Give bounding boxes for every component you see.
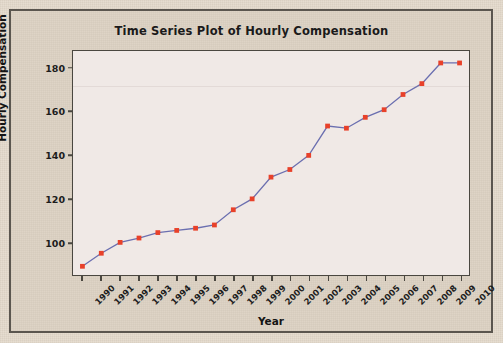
- x-tick-mark: [138, 276, 140, 281]
- x-tick-mark: [328, 276, 330, 281]
- y-tick-mark: [68, 155, 73, 157]
- grid-line: [73, 86, 469, 87]
- data-point-marker: [212, 223, 217, 228]
- chart-figure: Time Series Plot of Hourly Compensation …: [0, 0, 503, 343]
- data-point-marker: [325, 124, 330, 129]
- x-tick-mark: [119, 276, 121, 281]
- y-tick-label: 120: [23, 194, 65, 205]
- x-tick-mark: [176, 276, 178, 281]
- x-tick-mark: [195, 276, 197, 281]
- x-tick-mark: [252, 276, 254, 281]
- data-point-marker: [155, 230, 160, 235]
- plot-area: [72, 50, 470, 276]
- y-tick-label: 140: [23, 150, 65, 161]
- y-tick-mark: [68, 198, 73, 200]
- x-tick-mark: [442, 276, 444, 281]
- data-point-marker: [363, 115, 368, 120]
- data-point-marker: [99, 251, 104, 256]
- y-axis-title: Hourly Compensation: [0, 0, 8, 163]
- x-tick-mark: [157, 276, 159, 281]
- x-tick-mark: [461, 276, 463, 281]
- data-point-marker: [80, 264, 85, 269]
- x-tick-mark: [233, 276, 235, 281]
- data-point-marker: [438, 61, 443, 66]
- chart-title: Time Series Plot of Hourly Compensation: [0, 24, 503, 38]
- y-tick-mark: [68, 242, 73, 244]
- x-axis-title: Year: [72, 315, 470, 327]
- x-tick-mark: [404, 276, 406, 281]
- data-point-marker: [457, 61, 462, 66]
- series-line-and-markers: [73, 51, 469, 275]
- data-point-marker: [306, 153, 311, 158]
- x-tick-mark: [100, 276, 102, 281]
- x-tick-mark: [366, 276, 368, 281]
- data-point-marker: [269, 175, 274, 180]
- x-tick-mark: [214, 276, 216, 281]
- data-point-marker: [401, 92, 406, 97]
- data-point-marker: [118, 240, 123, 245]
- data-point-marker: [137, 236, 142, 241]
- x-tick-mark: [347, 276, 349, 281]
- data-point-marker: [382, 107, 387, 112]
- data-point-marker: [174, 228, 179, 233]
- x-tick-mark: [423, 276, 425, 281]
- plot-inner: [73, 51, 469, 275]
- data-point-marker: [250, 197, 255, 202]
- data-point-marker: [231, 207, 236, 212]
- y-tick-mark: [68, 67, 73, 69]
- data-point-marker: [344, 126, 349, 131]
- y-tick-mark: [68, 111, 73, 113]
- y-tick-label: 180: [23, 62, 65, 73]
- x-tick-mark: [385, 276, 387, 281]
- x-tick-mark: [81, 276, 83, 281]
- y-tick-label: 100: [23, 238, 65, 249]
- x-tick-mark: [290, 276, 292, 281]
- x-tick-mark: [309, 276, 311, 281]
- y-tick-label: 160: [23, 106, 65, 117]
- data-point-marker: [287, 167, 292, 172]
- data-point-marker: [193, 226, 198, 231]
- x-tick-mark: [271, 276, 273, 281]
